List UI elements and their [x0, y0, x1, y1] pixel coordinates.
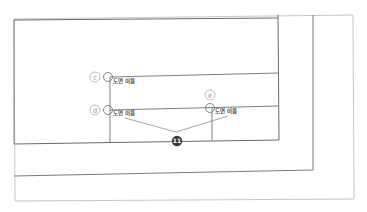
- title-block-row-line-2: [110, 106, 279, 110]
- callout-d: d: [90, 105, 100, 115]
- leader-line-left: [125, 118, 176, 132]
- callout-c-letter: c: [93, 74, 97, 82]
- field-label-d: 도면 이름: [113, 109, 135, 117]
- middle-frame: [14, 15, 313, 176]
- diagram-canvas: c d e 도면 이름 도면 이름 도면 이름 11: [0, 0, 367, 212]
- number-badge: 11: [172, 136, 182, 146]
- leader-line-right: [176, 116, 228, 132]
- title-block-row-line-1: [110, 73, 279, 77]
- callout-e: e: [205, 90, 215, 100]
- field-label-c: 도면 이름: [113, 77, 135, 85]
- callout-d-letter: d: [93, 107, 97, 115]
- callout-c: c: [90, 72, 100, 82]
- callout-e-letter: e: [208, 92, 212, 100]
- number-badge-text: 11: [173, 137, 181, 144]
- inner-frame: [14, 15, 279, 144]
- field-label-e: 도면 이름: [215, 107, 237, 115]
